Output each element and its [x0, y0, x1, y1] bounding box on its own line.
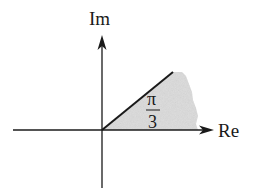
angle-label-numerator: π [147, 89, 156, 109]
imaginary-axis-label: Im [89, 8, 110, 29]
complex-plane-diagram: Im Re π 3 [0, 0, 253, 190]
real-axis-label: Re [218, 120, 239, 141]
angle-label-denominator: 3 [148, 112, 157, 132]
